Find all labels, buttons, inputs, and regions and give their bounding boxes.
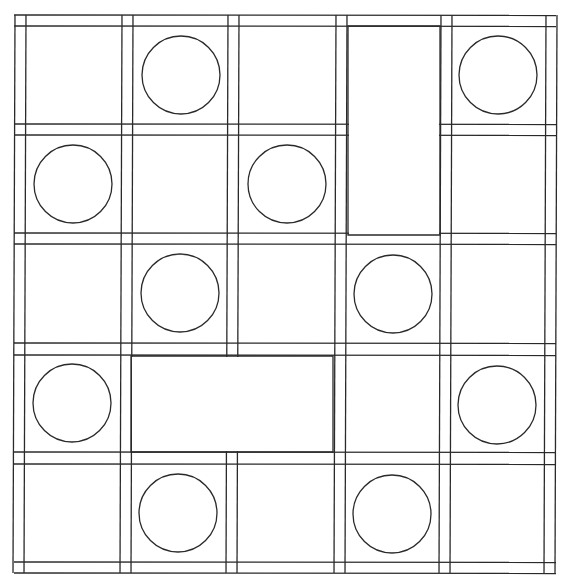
grid-vline-5-1: [555, 15, 557, 573]
grid-vline-2-1: [237, 15, 239, 573]
merged-blocks: [131, 26, 440, 452]
grid-vline-5-0: [544, 15, 546, 573]
grid-hline-0-0: [14, 15, 556, 16]
grid-lines: [13, 15, 557, 574]
circle-r2-c1: [141, 254, 219, 332]
circles: [33, 36, 537, 553]
circle-r3-c4: [458, 366, 536, 444]
tall-block-fill: [349, 27, 439, 234]
grid-hline-1-1: [14, 135, 556, 136]
grid-hline-0-1: [14, 26, 556, 27]
grid-vline-3-1: [345, 15, 347, 573]
circle-r0-c4: [459, 36, 537, 114]
grid-hline-1-0: [14, 124, 556, 125]
circle-r4-c3: [353, 475, 431, 553]
circle-r3-c0: [33, 364, 111, 442]
grid-hline-4-1: [14, 464, 556, 465]
circle-r1-c2: [248, 145, 326, 223]
circle-r1-c0: [34, 145, 112, 223]
grid-canvas: [0, 0, 569, 587]
grid-hline-5-0: [14, 562, 556, 563]
circle-r4-c1: [139, 474, 217, 552]
grid-vline-2-0: [226, 15, 228, 573]
grid-hline-5-1: [14, 573, 556, 574]
grid-vline-1-0: [120, 15, 122, 573]
grid-vline-0-0: [13, 15, 15, 573]
grid-diagram: [0, 0, 569, 587]
grid-hline-2-0: [14, 233, 556, 234]
grid-vline-4-1: [450, 15, 452, 573]
grid-hline-3-0: [14, 343, 556, 344]
grid-hline-2-1: [14, 244, 556, 245]
circle-r0-c1: [142, 36, 220, 114]
grid-vline-1-1: [131, 15, 133, 573]
circle-r2-c3: [354, 255, 432, 333]
grid-vline-3-0: [334, 15, 336, 573]
wide-block-fill: [132, 357, 332, 451]
grid-vline-0-1: [24, 15, 26, 573]
